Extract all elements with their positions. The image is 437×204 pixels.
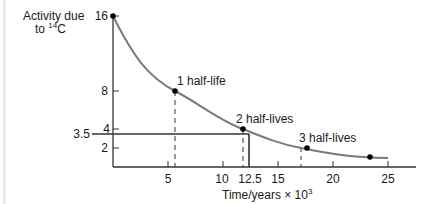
x-tick-label-20: 20 [326, 172, 340, 186]
point-1-half-life [172, 88, 178, 94]
y-ticks [113, 16, 119, 148]
x-ticks [168, 161, 388, 167]
x-tick-label-25: 25 [381, 172, 395, 186]
point-4-half-lives [367, 154, 373, 160]
x-tick-label-15: 15 [271, 172, 285, 186]
x-tick-label-5: 5 [165, 172, 172, 186]
y-tick-label-2: 2 [101, 141, 108, 155]
label-3-half-lives: 3 half-lives [299, 131, 356, 145]
label-1-half-life: 1 half-life [177, 74, 226, 88]
point-start [110, 13, 116, 19]
x-tick-label-12-5: 12.5 [238, 172, 262, 186]
decay-chart: 16 8 4 2 3.5 5 10 12.5 15 20 25 1 half-l… [0, 0, 437, 204]
y-tick-label-8: 8 [101, 84, 108, 98]
y-tick-label-4: 4 [103, 122, 110, 136]
point-3-half-lives [304, 145, 310, 151]
reference-label-3-5: 3.5 [73, 127, 90, 141]
label-2-half-lives: 2 half-lives [236, 112, 293, 126]
y-axis-title-line2: to 14C [35, 21, 66, 36]
point-2-half-lives [240, 126, 246, 132]
x-tick-label-10: 10 [215, 172, 229, 186]
x-axis-title: Time/years × 103 [222, 187, 313, 202]
y-tick-label-16: 16 [95, 9, 109, 23]
